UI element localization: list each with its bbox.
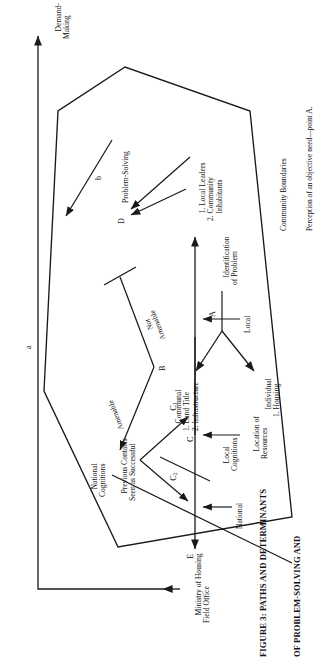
marker-A: A [208,311,217,317]
marker-C2-subscript: 2 [172,473,178,476]
node-individual: Individual 1. Housing [256,378,290,417]
marker-E: E [186,554,195,559]
label-national-cognitions: National Cognitions [82,463,116,497]
node-ministry-of-housing: Ministry of Housing Field Office [186,553,220,623]
label-not-amenable-text: Not Amenable [142,309,167,341]
marker-B: B [158,366,167,371]
node-communal: Communal 1. Land Title 2. Infrastructure [166,382,209,431]
figure-plate: FIGURE 3: PATHS AND DETERMINANTS OF PROB… [0,0,322,667]
node-actors: 1. Local Leaders 2. Community Inhabitant… [190,163,233,221]
label-local-cognitions-text: Local Cognitions [222,438,240,471]
figure-title: FIGURE 3: PATHS AND DETERMINANTS OF PROB… [236,489,322,657]
label-location-of-resources-text: Location of Resources [252,416,270,459]
title-line-1: FIGURE 3: PATHS AND DETERMINANTS [258,489,269,657]
label-national-cognitions-text: National Cognitions [90,463,108,497]
node-demand-making-label: Demand- Making [54,3,72,39]
title-line-2: OF PROBLEM-SOLVING AND [292,489,303,657]
marker-C2: C2 [160,473,188,489]
node-previous-contacts: Previous Contacts Seen as Successful [112,438,146,501]
node-problem-solving: Problem-Solving [122,151,131,203]
node-demand-making: Demand- Making [46,3,80,39]
marker-b: b [94,176,103,180]
marker-D: D [117,218,126,224]
marker-C: C [186,437,195,442]
marker-a: a [24,345,33,349]
label-local: Local [244,316,253,333]
node-identification-of-problem: Identification of Problem [214,237,248,286]
node-communal-label: Communal 1. Land Title 2. Infrastructure [174,382,200,431]
label-community-boundaries: Community Boundaries [280,158,289,231]
label-national: National [236,503,245,529]
node-ministry-label: Ministry of Housing Field Office [194,553,212,623]
node-actors-label: 1. Local Leaders 2. Community Inhabitant… [198,163,224,221]
label-location-of-resources: Location of Resources [244,416,278,459]
node-individual-label: Individual 1. Housing [264,378,282,417]
figure-caption: Perception of an objective need—point A. [306,107,314,231]
marker-C2-letter: C [169,475,178,480]
label-local-cognitions: Local Cognitions [214,438,248,471]
node-previous-contacts-label: Previous Contacts Seen as Successful [120,438,138,501]
node-identification-label: Identification of Problem [222,237,240,286]
